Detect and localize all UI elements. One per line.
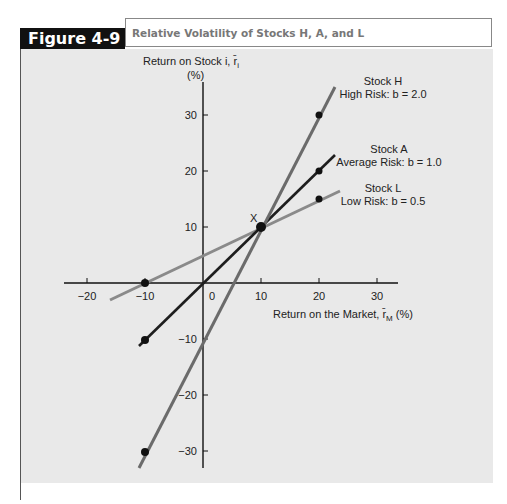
stock-h-point (141, 448, 149, 456)
y-tick-label: −10 (178, 333, 197, 345)
y-tick-label: 10 (185, 221, 197, 233)
y-tick-label: 30 (185, 109, 197, 121)
stock-h-name: Stock H (364, 75, 403, 87)
stock-l-risk: Low Risk: b = 0.5 (341, 195, 426, 207)
y-tick-label: −30 (178, 445, 197, 457)
intersection-point-x (256, 222, 266, 232)
x-axis-title-text: Return on the Market, r̄M (%) (273, 308, 413, 323)
y-tick-label: −20 (178, 389, 197, 401)
stock-h-risk: High Risk: b = 2.0 (339, 88, 426, 100)
stock-a-risk: Average Risk: b = 1.0 (336, 156, 441, 168)
x-tick-label: −20 (78, 290, 97, 302)
x-tick-label: 20 (313, 290, 325, 302)
x-tick-label: 10 (255, 290, 267, 302)
stock-l-annotation: Stock L Low Risk: b = 0.5 (341, 182, 426, 207)
series-stock-h (139, 87, 335, 468)
stock-a-point (141, 336, 149, 344)
x-tick-label: 0 (209, 290, 215, 302)
x-tick-label: 30 (371, 290, 383, 302)
x-axis-title: Return on the Market, r̄M (%) (273, 308, 413, 323)
intersection-label: X (250, 212, 258, 224)
stock-a-name: Stock A (370, 143, 408, 155)
chart-svg: −20 −10 0 10 20 30 30 20 10 −10 −20 −30 … (0, 0, 507, 504)
stock-a-annotation: Stock A Average Risk: b = 1.0 (336, 143, 441, 168)
stock-h-point (316, 112, 323, 119)
y-axis-title-unit: (%) (187, 69, 204, 81)
y-tick-label: 20 (185, 165, 197, 177)
stock-l-point (316, 196, 323, 203)
y-axis-title-main: Return on Stock i, r̄i (143, 55, 239, 70)
x-ticks (87, 278, 377, 283)
y-axis-title: Return on Stock i, r̄i (%) (143, 55, 239, 81)
x-tick-label: −10 (136, 290, 155, 302)
stock-h-line (139, 87, 335, 468)
stock-l-name: Stock L (365, 182, 402, 194)
stock-a-point (316, 168, 323, 175)
stock-l-point (141, 279, 149, 287)
axes: −20 −10 0 10 20 30 30 20 10 −10 −20 −30 (64, 82, 398, 468)
stock-h-annotation: Stock H High Risk: b = 2.0 (339, 75, 426, 100)
